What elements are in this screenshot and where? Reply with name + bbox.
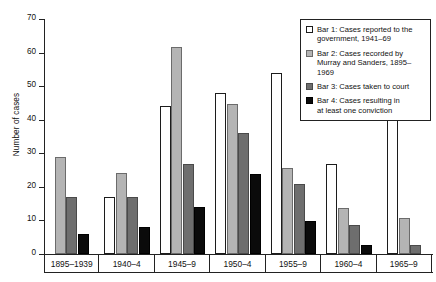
bar-bar-1 [215,93,226,254]
bar-bar-4 [361,245,372,254]
bar-bar-2 [282,168,293,254]
y-tick-label: 20 [27,181,36,190]
legend-item: Bar 2: Cases recorded by Murray and Sand… [306,49,426,77]
y-tick-label: 40 [27,114,36,123]
bar-bar-3 [183,164,194,254]
y-tick-label: 30 [27,147,36,156]
x-axis-label: 1940–4 [99,255,154,272]
bar-bar-1 [271,73,282,254]
bar-bar-3 [238,133,249,254]
bar-bar-1 [160,106,171,254]
x-axis-category-band: 1895–19391940–41945–91950–41955–91960–41… [44,254,433,273]
bar-bar-4 [250,174,261,254]
bar-bar-2 [227,104,238,254]
bar-group [99,19,154,254]
bar-chart: Number of cases 010203040506070 1895–193… [0,0,436,282]
bar-bar-2 [116,173,127,254]
bar-bar-4 [305,221,316,254]
x-axis-label: 1945–9 [155,255,210,272]
bar-bar-1 [326,164,337,254]
bar-bar-4 [78,234,89,254]
x-axis-label: 1960–4 [321,255,376,272]
legend-label: Bar 2: Cases recorded by Murray and Sand… [317,49,426,77]
bar-bar-2 [55,157,66,254]
bar-bar-3 [127,197,138,254]
legend-swatch-icon [306,50,313,57]
bar-group [44,19,99,254]
legend-item: Bar 4: Cases resulting in at least one c… [306,96,426,115]
x-axis-label: 1955–9 [266,255,321,272]
y-tick-label: 10 [27,214,36,223]
bar-bar-2 [399,218,410,254]
x-axis-label: 1950–4 [210,255,265,272]
bar-bar-1 [104,197,115,254]
x-axis-label: 1895–1939 [44,255,99,272]
legend-item: Bar 3: Cases taken to court [306,82,426,91]
bar-bar-1 [387,111,398,254]
legend-item: Bar 1: Cases reported to the government,… [306,25,426,44]
bar-bar-2 [338,208,349,254]
bar-bar-4 [194,207,205,254]
bar-bar-3 [66,197,77,254]
legend-swatch-icon [306,26,313,33]
y-tick-label: 60 [27,47,36,56]
legend-label: Bar 1: Cases reported to the government,… [317,25,412,44]
y-tick-label: 0 [31,248,36,257]
bar-bar-3 [410,245,421,254]
bar-bar-3 [349,225,360,254]
legend-label: Bar 3: Cases taken to court [317,82,409,91]
legend-label: Bar 4: Cases resulting in at least one c… [317,96,400,115]
x-axis-label: 1965–9 [377,255,432,272]
bar-bar-4 [139,227,150,254]
y-tick-label: 70 [27,13,36,22]
bar-group [210,19,265,254]
y-axis-title: Number of cases [12,65,21,185]
bar-group [155,19,210,254]
legend-swatch-icon [306,97,313,104]
bar-bar-3 [294,184,305,254]
y-tick-label: 50 [27,80,36,89]
bar-bar-2 [171,47,182,254]
chart-legend: Bar 1: Cases reported to the government,… [300,19,431,121]
legend-swatch-icon [306,83,313,90]
